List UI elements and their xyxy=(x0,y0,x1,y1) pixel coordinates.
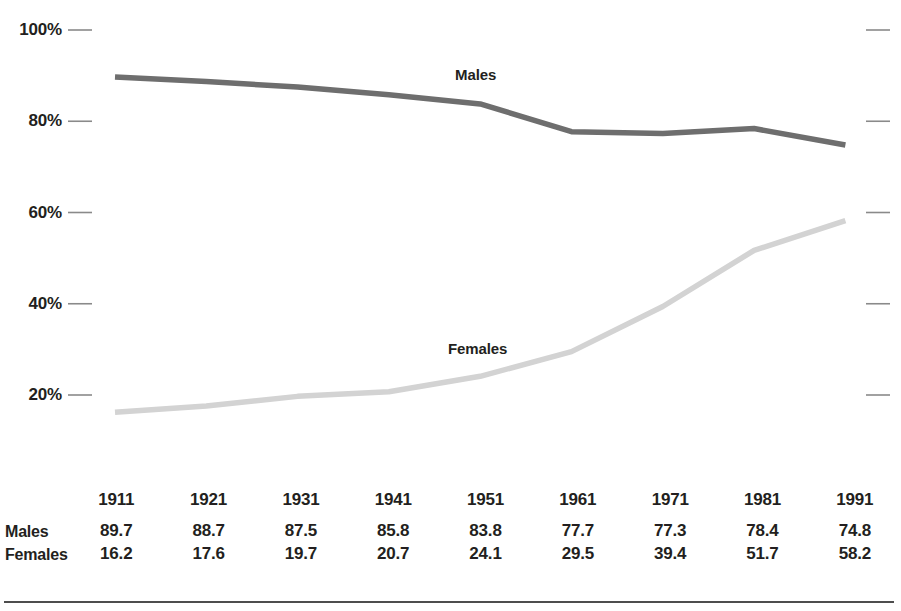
series-inline-label-males: Males xyxy=(455,66,496,83)
table-cell: 29.5 xyxy=(532,541,624,564)
data-table: 191119211931194119511961197119811991Male… xyxy=(0,470,901,564)
table-cell: 77.7 xyxy=(532,518,624,541)
series-line-females xyxy=(115,221,845,413)
table-row: Males89.788.787.585.883.877.777.378.474.… xyxy=(0,518,901,541)
table-cell: 78.4 xyxy=(716,518,808,541)
table-spacer-cell xyxy=(0,510,901,518)
table-row-header: Females xyxy=(0,541,70,564)
series-line-males xyxy=(115,77,845,145)
table-cell: 24.1 xyxy=(439,541,531,564)
y-axis-tick-label: 20% xyxy=(0,386,62,404)
table-cell: 58.2 xyxy=(809,541,901,564)
plot-area: 100%80%60%40%20% MalesFemales xyxy=(0,0,901,470)
table-cell: 20.7 xyxy=(347,541,439,564)
data-table-area: 191119211931194119511961197119811991Male… xyxy=(0,470,901,611)
y-axis-tick-label-text: 100% xyxy=(0,21,62,38)
y-axis-tick-label-text: 80% xyxy=(0,112,62,129)
table-cell: 17.6 xyxy=(162,541,254,564)
table-cell: 85.8 xyxy=(347,518,439,541)
table-column-header: 1961 xyxy=(532,470,624,510)
y-axis-tick-label: 80% xyxy=(0,112,62,130)
table-column-header: 1921 xyxy=(162,470,254,510)
table-column-header: 1931 xyxy=(255,470,347,510)
table-header-row: 191119211931194119511961197119811991 xyxy=(0,470,901,510)
y-axis-tick-label: 40% xyxy=(0,295,62,313)
y-axis-tick-label-text: 20% xyxy=(0,386,62,403)
table-cell: 16.2 xyxy=(70,541,162,564)
table-column-header: 1941 xyxy=(347,470,439,510)
y-axis-tick-label-text: 60% xyxy=(0,204,62,221)
table-row: Females16.217.619.720.724.129.539.451.75… xyxy=(0,541,901,564)
table-cell: 19.7 xyxy=(255,541,347,564)
table-cell: 83.8 xyxy=(439,518,531,541)
y-axis-tick-label-text: 40% xyxy=(0,295,62,312)
table-cell: 88.7 xyxy=(162,518,254,541)
table-column-header: 1981 xyxy=(716,470,808,510)
table-cell: 77.3 xyxy=(624,518,716,541)
table-cell: 87.5 xyxy=(255,518,347,541)
series-inline-label-females: Females xyxy=(448,340,507,357)
table-cell: 39.4 xyxy=(624,541,716,564)
table-spacer-row xyxy=(0,510,901,518)
table-column-header: 1991 xyxy=(809,470,901,510)
series-lines xyxy=(115,77,845,412)
table-column-header: 1911 xyxy=(70,470,162,510)
y-axis-right-ticks xyxy=(866,30,890,395)
table-cell: 51.7 xyxy=(716,541,808,564)
table-cell: 89.7 xyxy=(70,518,162,541)
table-row-header: Males xyxy=(0,518,70,541)
y-axis-left-ticks xyxy=(68,30,92,395)
table-column-header: 1971 xyxy=(624,470,716,510)
line-chart-svg xyxy=(0,0,901,470)
table-column-header: 1951 xyxy=(439,470,531,510)
y-axis-tick-label: 60% xyxy=(0,204,62,222)
chart-figure: 100%80%60%40%20% MalesFemales 1911192119… xyxy=(0,0,901,611)
table-cell: 74.8 xyxy=(809,518,901,541)
y-axis-tick-label: 100% xyxy=(0,21,62,39)
table-corner-cell xyxy=(0,470,70,510)
table-bottom-rule xyxy=(4,601,894,603)
